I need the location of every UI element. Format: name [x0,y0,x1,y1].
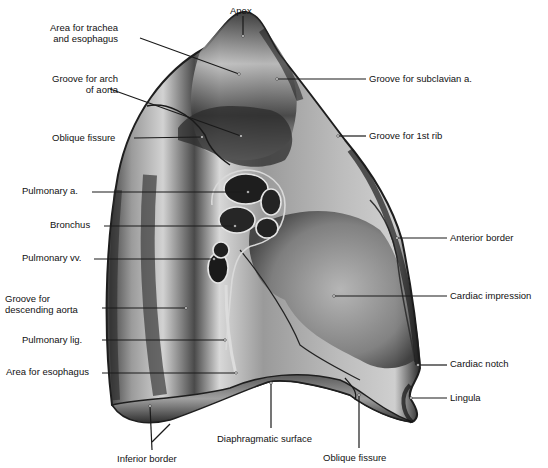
label-anterior-border: Anterior border [450,232,513,243]
label-text: Inferior border [117,453,177,464]
label-apex: Apex [230,5,252,16]
label-groove-subclavian: Groove for subclavian a. [369,73,472,84]
label-text: Groove for arch [52,73,118,84]
label-oblique-fissure-bottom: Oblique fissure [323,452,386,463]
label-area-trachea-esophagus: Area for tracheaand esophagus [50,22,118,44]
label-text: Pulmonary a. [22,185,78,196]
label-text: Lingula [450,392,481,403]
label-groove-1st-rib: Groove for 1st rib [369,130,442,141]
label-pulmonary-artery: Pulmonary a. [22,185,78,196]
label-text: Groove for subclavian a. [369,73,472,84]
label-text: Cardiac impression [450,290,531,301]
label-text: Groove for [5,293,78,304]
label-groove-arch-aorta: Groove for archof aorta [52,73,118,95]
label-oblique-fissure-top: Oblique fissure [52,132,115,143]
label-text: Anterior border [450,232,513,243]
label-groove-descending-aorta: Groove fordescending aorta [5,293,78,315]
label-text: Pulmonary vv. [22,252,81,263]
label-text: Area for esophagus [6,366,89,377]
label-text: Oblique fissure [323,452,386,463]
label-inferior-border: Inferior border [117,453,177,464]
label-text: Pulmonary lig. [22,334,82,345]
label-text: of aorta [52,84,118,95]
label-text: Diaphragmatic surface [217,433,312,444]
vessel-small-1 [261,189,281,215]
pulmonary-vein-vessel-2 [213,242,229,258]
label-lingula: Lingula [450,392,481,403]
label-text: Apex [230,5,252,16]
label-bronchus: Bronchus [50,219,90,230]
label-text: and esophagus [50,33,118,44]
label-text: Groove for 1st rib [369,130,442,141]
label-pulmonary-veins: Pulmonary vv. [22,252,81,263]
label-text: Area for trachea [50,22,118,33]
label-text: Oblique fissure [52,132,115,143]
label-cardiac-impression: Cardiac impression [450,290,531,301]
bronchus-vessel [219,207,255,233]
vessel-small-2 [256,218,278,238]
label-text: descending aorta [5,304,78,315]
label-diaphragmatic-surface: Diaphragmatic surface [217,433,312,444]
label-cardiac-notch: Cardiac notch [450,358,509,369]
label-pulmonary-ligament: Pulmonary lig. [22,334,82,345]
label-text: Cardiac notch [450,358,509,369]
label-text: Bronchus [50,219,90,230]
label-area-esophagus: Area for esophagus [6,366,89,377]
